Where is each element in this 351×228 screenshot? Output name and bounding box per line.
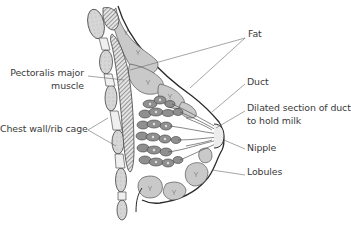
label-pectoralis-line1: Pectoralis major [0,67,84,79]
label-pectoralis-line2: muscle [0,80,84,92]
label-lobules: Lobules [247,166,282,178]
nipple [214,124,224,148]
label-fat: Fat [248,28,262,40]
label-chest-wall: Chest wall/rib cage [0,123,86,135]
label-duct: Duct [247,76,269,88]
label-dilated-duct-line1: Dilated section of duct [247,102,351,114]
label-dilated-duct-line2: to hold milk [247,115,301,127]
label-nipple: Nipple [247,142,276,154]
